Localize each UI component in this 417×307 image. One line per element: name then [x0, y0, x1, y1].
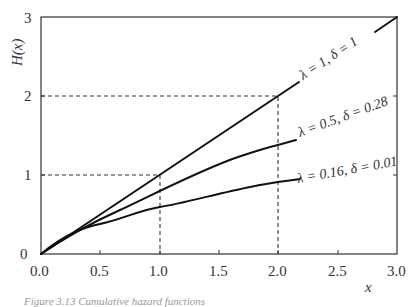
- x-tick-2.5: 2.5: [328, 263, 347, 279]
- x-tick-0.0: 0.0: [30, 263, 49, 279]
- x-tick-1.5: 1.5: [209, 263, 228, 279]
- y-axis-title: H(x): [9, 39, 26, 67]
- curve-lambda-1-end: [375, 17, 397, 32]
- y-tick-0: 0: [20, 246, 28, 262]
- x-tick-2.0: 2.0: [268, 263, 287, 279]
- curve-label-lambda-0.16: λ = 0.16, δ = 0.01: [295, 154, 399, 187]
- curve-lambda-0.16: [41, 179, 300, 254]
- x-tick-3.0: 3.0: [387, 263, 406, 279]
- x-tick-0.5: 0.5: [90, 263, 109, 279]
- x-ticks: [100, 250, 338, 254]
- x-tick-1.0: 1.0: [149, 263, 168, 279]
- y-tick-3: 3: [24, 10, 32, 26]
- curve-label-lambda-1: λ = 1, δ = 1: [296, 34, 361, 83]
- x-axis-title: x: [364, 279, 372, 295]
- y-tick-2: 2: [24, 88, 32, 104]
- figure-caption: Figure 3.13 Cumulative hazard functions: [24, 295, 205, 307]
- curve-lambda-1: [41, 82, 299, 254]
- curve-label-lambda-0.5: λ = 0.5, δ = 0.28: [295, 93, 390, 140]
- y-tick-1: 1: [24, 167, 32, 183]
- curve-lambda-0.5: [41, 140, 296, 254]
